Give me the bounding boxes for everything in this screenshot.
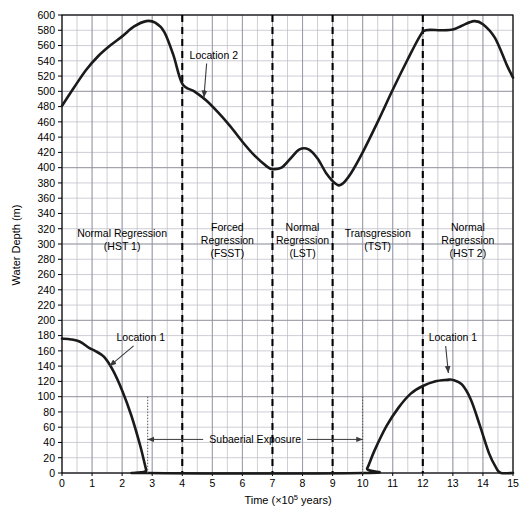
x-axis-tick-label: 5	[209, 477, 215, 489]
x-axis-tick-label: 15	[507, 477, 519, 489]
span-annotation-label: Subaerial Exposure	[209, 433, 301, 445]
y-axis-tick-label: 500	[37, 85, 55, 97]
y-axis-tick-label: 460	[37, 116, 55, 128]
y-axis-tick-label: 280	[37, 253, 55, 265]
zone-label-line: Forced	[211, 221, 244, 233]
x-axis-tick-label: 14	[477, 477, 489, 489]
y-axis-tick-label: 220	[37, 299, 55, 311]
y-axis-tick-label: 380	[37, 177, 55, 189]
y-axis-tick-label: 400	[37, 161, 55, 173]
annotation-label: Location 1	[429, 331, 478, 343]
zone-label-line: (HST 2)	[450, 247, 487, 259]
y-axis-tick-label: 480	[37, 100, 55, 112]
y-axis-tick-label: 600	[37, 9, 55, 21]
y-axis-tick-label: 320	[37, 223, 55, 235]
annotation-label: Location 1	[117, 331, 166, 343]
y-axis-tick-label: 200	[37, 314, 55, 326]
y-axis-tick-label: 260	[37, 268, 55, 280]
y-axis-title: Water Depth (m)	[10, 205, 22, 286]
zone-label-line: Normal	[286, 221, 320, 233]
water-depth-chart-figure: 0123456789101112131415 02040608010012014…	[0, 0, 532, 518]
x-axis-tick-label: 1	[89, 477, 95, 489]
y-axis-tick-label: 20	[43, 452, 55, 464]
y-axis-tick-label: 240	[37, 284, 55, 296]
zone-label-line: (FSST)	[210, 247, 244, 259]
y-axis-tick-label: 0	[49, 467, 55, 479]
y-axis-tick-label: 40	[43, 436, 55, 448]
zone-label-line: Regression	[276, 234, 329, 246]
y-axis-tick-label: 360	[37, 192, 55, 204]
x-axis-title: Time (×105 years)	[244, 493, 331, 506]
x-axis-tick-label: 10	[357, 477, 369, 489]
y-axis-tick-label: 520	[37, 70, 55, 82]
y-axis-tick-label: 120	[37, 375, 55, 387]
x-axis-tick-label: 12	[417, 477, 429, 489]
zone-label-line: (HST 1)	[104, 240, 141, 252]
x-axis-title-tail: years)	[298, 494, 332, 506]
y-axis-tick-label: 140	[37, 360, 55, 372]
y-axis-tick-label: 540	[37, 55, 55, 67]
x-axis-tick-label: 2	[119, 477, 125, 489]
y-axis-tick-label: 160	[37, 345, 55, 357]
y-axis-tick-label: 100	[37, 390, 55, 402]
zone-label-line: (LST)	[289, 247, 315, 259]
x-axis-tick-label: 9	[330, 477, 336, 489]
zone-label-line: (TST)	[364, 240, 391, 252]
x-axis-tick-label: 6	[239, 477, 245, 489]
y-axis-tick-label: 180	[37, 329, 55, 341]
y-axis-tick-label: 580	[37, 24, 55, 36]
y-axis-tick-label: 420	[37, 146, 55, 158]
x-axis-tick-label: 11	[387, 477, 398, 489]
zone-label-line: Regression	[441, 234, 494, 246]
y-axis-tick-label: 440	[37, 131, 55, 143]
y-axis-tick-label: 80	[43, 406, 55, 418]
x-axis-tick-label: 8	[300, 477, 306, 489]
x-axis-tick-label: 13	[447, 477, 459, 489]
x-axis-tick-label: 4	[179, 477, 185, 489]
x-axis-tick-label: 3	[149, 477, 155, 489]
zone-label-line: Normal Regression	[77, 227, 167, 239]
y-axis-tick-label: 560	[37, 39, 55, 51]
y-axis-tick-label: 60	[43, 421, 55, 433]
zone-label-line: Transgression	[345, 227, 411, 239]
zone-label-line: Normal	[451, 221, 485, 233]
chart-canvas: 0123456789101112131415 02040608010012014…	[0, 0, 532, 518]
x-axis-title-main: Time (×10	[244, 494, 293, 506]
zone-label-line: Regression	[201, 234, 254, 246]
y-axis-tick-label: 300	[37, 238, 55, 250]
x-axis-tick-label: 0	[59, 477, 65, 489]
x-axis-tick-label: 7	[270, 477, 276, 489]
y-axis-tick-label: 340	[37, 207, 55, 219]
annotation-label: Location 2	[190, 49, 239, 61]
